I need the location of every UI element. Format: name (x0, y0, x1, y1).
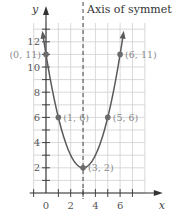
data-point (43, 52, 49, 58)
parabola-chart: 024624681012xyAxis of symmetry(0, 11)(1,… (0, 0, 172, 218)
y-tick-label: 6 (34, 112, 40, 123)
point-label: (3, 2) (88, 162, 114, 173)
axis-of-symmetry-label: Axis of symmetry (86, 3, 172, 16)
x-tick-label: 4 (92, 200, 98, 211)
data-point (105, 115, 111, 121)
data-point (117, 52, 123, 58)
y-tick-label: 12 (27, 36, 40, 47)
y-axis-label: y (31, 3, 39, 16)
y-axis-arrow-icon (43, 6, 49, 15)
x-axis-arrow-icon (154, 190, 163, 196)
data-point (56, 115, 62, 121)
point-label: (6, 11) (125, 49, 157, 60)
point-label: (1, 6) (63, 112, 89, 123)
x-tick-label: 2 (68, 200, 74, 211)
data-point (80, 165, 86, 171)
y-tick-label: 10 (27, 62, 40, 73)
x-axis-label: x (159, 199, 166, 212)
y-tick-label: 2 (34, 162, 40, 173)
point-label: (0, 11) (9, 49, 41, 60)
point-label: (5, 6) (113, 112, 139, 123)
y-tick-label: 4 (34, 137, 40, 148)
x-tick-label: 0 (43, 200, 49, 211)
x-tick-label: 6 (117, 200, 123, 211)
curve-arrow-icon (120, 31, 126, 39)
y-tick-label: 8 (34, 87, 40, 98)
